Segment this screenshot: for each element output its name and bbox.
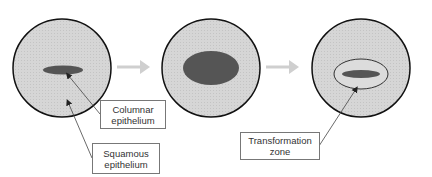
label-transformation-line1: Transformation	[248, 135, 312, 146]
columnar-epithelium-small	[342, 70, 380, 78]
diagram-canvas	[0, 0, 432, 177]
stage-2-cervix	[162, 19, 260, 117]
label-squamous-epithelium: Squamous epithelium	[92, 143, 160, 174]
label-transformation-zone: Transformation zone	[240, 132, 320, 160]
stage-3-cervix	[312, 19, 410, 117]
flow-arrow-2	[266, 60, 299, 74]
columnar-epithelium-small	[43, 66, 83, 75]
stage-1-cervix	[13, 19, 111, 117]
label-squamous-line1: Squamous	[103, 148, 148, 159]
label-transformation-line2: zone	[270, 146, 291, 157]
label-columnar-line2: epithelium	[111, 115, 154, 126]
label-columnar-line1: Columnar	[112, 104, 153, 115]
flow-arrow-1	[117, 60, 150, 74]
columnar-epithelium-large	[183, 51, 239, 85]
label-columnar-epithelium: Columnar epithelium	[100, 100, 166, 129]
label-squamous-line2: epithelium	[104, 159, 147, 170]
